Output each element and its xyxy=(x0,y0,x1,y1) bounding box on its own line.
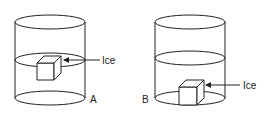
cylinder-label-a: A xyxy=(90,94,97,105)
cylinder-a-bottom xyxy=(15,91,85,105)
cylinder-b-water-surface xyxy=(155,51,225,65)
cylinder-b-top-rim xyxy=(155,15,225,29)
cylinder-a xyxy=(15,15,100,105)
diagram-canvas: Ice A Ice B xyxy=(0,0,271,120)
ice-cube-b xyxy=(179,80,204,105)
ice-label-a: Ice xyxy=(102,55,116,66)
cylinder-b xyxy=(155,15,240,105)
ice-cube-a xyxy=(37,56,61,80)
ice-label-b: Ice xyxy=(243,80,257,91)
cylinder-a-top-rim xyxy=(15,15,85,29)
cylinder-label-b: B xyxy=(142,94,149,105)
